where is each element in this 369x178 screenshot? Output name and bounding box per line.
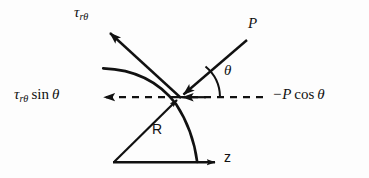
tau-sin-angle: θ [52, 86, 59, 102]
tau-subscript: rθ [79, 11, 88, 22]
minus-sign: − [272, 86, 282, 102]
p-force-vector [184, 40, 248, 95]
tau-sin-subscript: rθ [19, 93, 28, 104]
label-p-force: P [248, 16, 257, 31]
sin-operator: sin [31, 86, 49, 102]
p-cos-symbol: P [282, 86, 291, 102]
radius-line-r [115, 100, 178, 162]
label-tau-sin-theta: τrθ sin θ [14, 87, 59, 104]
cos-operator: cos [294, 86, 314, 102]
radius-arc [103, 68, 197, 162]
tau-shear-vector [110, 33, 181, 98]
label-minus-p-cos-theta: −P cos θ [272, 87, 325, 102]
force-diagram-figure: τrθ τrθ sin θ P −P cos θ θ R z [0, 0, 369, 178]
label-radius-r: R [152, 122, 162, 136]
theta-angle-arc [206, 67, 221, 97]
label-tau-r-theta: τrθ [74, 5, 88, 22]
label-z-axis: z [224, 150, 231, 164]
label-theta-angle: θ [224, 63, 231, 78]
p-cos-angle: θ [317, 86, 324, 102]
